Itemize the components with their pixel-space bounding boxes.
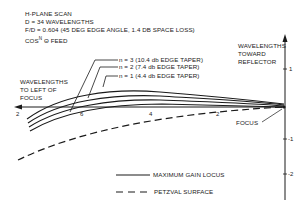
right-axis-label-3: REFLECTOR <box>238 58 276 66</box>
y-tick-label: -1 <box>288 136 293 142</box>
left-axis-label-3: FOCUS <box>20 94 42 102</box>
header-diameter: D = 34 WAVELENGTHS <box>25 18 94 26</box>
x-tick-label: 2 <box>216 111 219 117</box>
feed-prefix: COS <box>25 37 39 44</box>
legend-dashed-label: PETZVAL SURFACE <box>154 188 213 196</box>
x-tick-label: 2 <box>16 111 19 117</box>
feed-suffix: θ FEED <box>42 37 67 44</box>
curve-label-n2: n = 2 (7.4 db EDGE TAPER) <box>119 63 200 71</box>
curve-label-n1: n = 1 (4.4 db EDGE TAPER) <box>119 72 200 80</box>
focus-point <box>282 105 285 108</box>
right-axis-label-1: WAVELENGTHS <box>238 42 286 50</box>
right-axis-label-2: TOWARD <box>238 50 266 58</box>
vertical-axis-arrow-icon <box>283 34 288 42</box>
header-focal-ratio: F/D = 0.604 (45 deg EDGE ANGLE, 1.4 db S… <box>25 26 195 34</box>
leader-n2 <box>88 67 118 98</box>
header-scan-type: H-PLANE SCAN <box>25 10 72 18</box>
header-feed-type: COSn θ FEED <box>25 35 68 45</box>
y-tick-label: 1 <box>289 66 292 72</box>
y-tick-label: -2 <box>288 171 293 177</box>
focus-leader <box>262 109 282 122</box>
x-tick-label: 4 <box>149 111 152 117</box>
legend-solid-label: MAXIMUM GAIN LOCUS <box>153 171 225 179</box>
focus-label: FOCUS <box>236 119 258 127</box>
left-axis-label-2: TO LEFT OF <box>20 86 57 94</box>
curve-n3 <box>27 91 284 119</box>
left-axis-label-1: WAVELENGTHS <box>20 78 68 86</box>
leader-n1 <box>103 76 118 87</box>
horizontal-axis-arrow-icon <box>14 105 22 110</box>
x-tick-label: 6 <box>80 111 83 117</box>
